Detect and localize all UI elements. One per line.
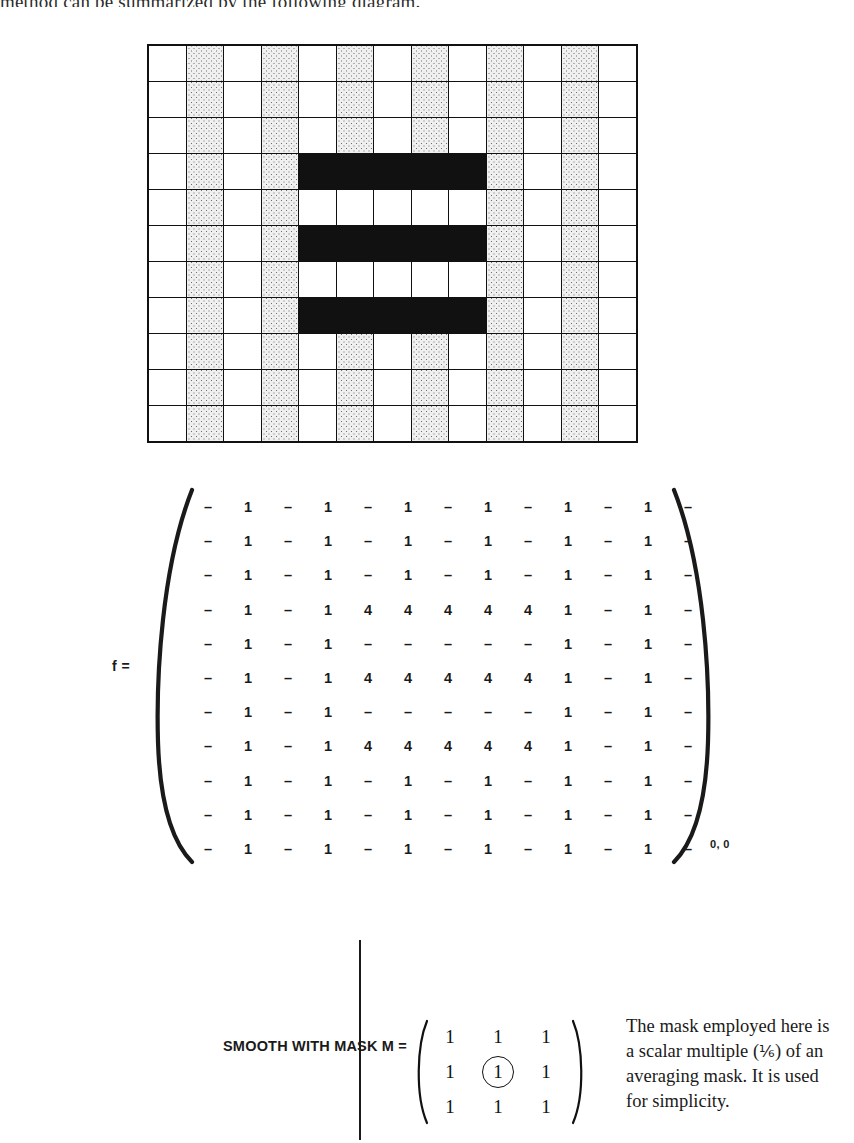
pixel-cell-white	[148, 82, 186, 118]
matrix-f-cell: 1	[628, 627, 668, 661]
pixel-cell-dotted	[486, 45, 524, 82]
matrix-f-cell: –	[588, 729, 628, 763]
matrix-f-cell: 1	[548, 764, 588, 798]
matrix-f-cell: 1	[548, 627, 588, 661]
pixel-cell-dotted	[186, 370, 224, 406]
matrix-f-cell: 1	[228, 832, 268, 866]
matrix-f-cell: –	[508, 798, 548, 832]
matrix-f-cell: 4	[428, 729, 468, 763]
matrix-f-cell: 4	[428, 661, 468, 695]
matrix-f-cell: 1	[228, 798, 268, 832]
matrix-f-cell: –	[588, 695, 628, 729]
pixel-cell-white	[599, 226, 637, 262]
matrix-f-cell: –	[428, 695, 468, 729]
pixel-cell-dotted	[336, 45, 374, 82]
pixel-cell-dotted	[336, 118, 374, 154]
matrix-f-cell: –	[188, 524, 228, 558]
matrix-f-cell: –	[348, 832, 388, 866]
mask-note-line-2-pre: a scalar multiple (	[626, 1041, 759, 1061]
pixel-cell-dotted	[186, 45, 224, 82]
pixel-cell-dotted	[486, 370, 524, 406]
mask-matrix-cell-origin-circled: 1	[474, 1054, 522, 1089]
pixel-cell-white	[374, 82, 412, 118]
pixel-cell-dotted	[561, 298, 599, 334]
pixel-grid-row	[148, 298, 637, 334]
matrix-f-cell: –	[268, 729, 308, 763]
matrix-f-cell: –	[268, 524, 308, 558]
right-parenthesis-icon	[670, 486, 714, 866]
pixel-cell-white	[148, 298, 186, 334]
matrix-f-cell: 1	[308, 627, 348, 661]
pixel-cell-white	[374, 45, 412, 82]
matrix-f-cell: –	[268, 798, 308, 832]
pixel-cell-white	[148, 190, 186, 226]
pixel-cell-dotted	[261, 370, 299, 406]
matrix-f-cell: –	[188, 627, 228, 661]
mask-matrix-row: 111	[426, 1019, 570, 1054]
matrix-f-cell: –	[588, 558, 628, 592]
matrix-f-cell: –	[428, 524, 468, 558]
matrix-f-cell: 1	[308, 558, 348, 592]
matrix-f-cell: –	[268, 661, 308, 695]
pixel-cell-dotted	[186, 190, 224, 226]
pixel-cell-dotted	[486, 82, 524, 118]
pixel-cell-white	[148, 118, 186, 154]
matrix-f-cell: 1	[308, 524, 348, 558]
pixel-grid-row	[148, 226, 637, 262]
matrix-f-cell: 1	[628, 558, 668, 592]
pixel-cell-white	[524, 334, 562, 370]
pixel-cell-dotted	[336, 406, 374, 443]
matrix-f-cell: 4	[388, 661, 428, 695]
pixel-cell-white	[224, 334, 262, 370]
pixel-cell-white	[449, 406, 487, 443]
matrix-f-cell: –	[348, 695, 388, 729]
pixel-cell-dotted	[336, 370, 374, 406]
pixel-cell-white	[374, 406, 412, 443]
mask-note-line-4: for simplicity.	[626, 1091, 730, 1111]
pixel-cell-dotted	[486, 334, 524, 370]
matrix-f-cell: 1	[468, 490, 508, 524]
pixel-cell-white	[299, 82, 337, 118]
pixel-cell-black	[374, 154, 412, 190]
matrix-f-cell: –	[588, 798, 628, 832]
matrix-f-cell: 1	[628, 593, 668, 627]
pixel-cell-dotted	[561, 154, 599, 190]
pixel-cell-dotted	[261, 334, 299, 370]
matrix-f-cell: –	[508, 627, 548, 661]
mask-matrix-container: 111111111	[410, 1019, 610, 1125]
mask-note-fraction: ⅙	[759, 1043, 775, 1060]
matrix-f-row: –1–1–1–1–1–1–	[188, 524, 708, 558]
matrix-f-cell: –	[268, 695, 308, 729]
pixel-cell-white	[299, 406, 337, 443]
pixel-cell-dotted	[186, 118, 224, 154]
pixel-cell-black	[449, 298, 487, 334]
pixel-cell-white	[599, 262, 637, 298]
matrix-f-cell: –	[188, 490, 228, 524]
matrix-f-cell: 1	[628, 661, 668, 695]
pixel-cell-white	[374, 190, 412, 226]
pixel-cell-white	[449, 334, 487, 370]
matrix-f-cell: –	[468, 627, 508, 661]
pixel-cell-dotted	[261, 262, 299, 298]
pixel-cell-white	[224, 190, 262, 226]
pixel-cell-white	[449, 370, 487, 406]
matrix-f-cell: –	[428, 832, 468, 866]
matrix-f-cell: –	[268, 593, 308, 627]
pixel-cell-black	[411, 226, 449, 262]
matrix-f-body: –1–1–1–1–1–1––1–1–1–1–1–1––1–1–1–1–1–1––…	[188, 490, 708, 866]
matrix-f-cell: 4	[348, 729, 388, 763]
pixel-cell-black	[374, 298, 412, 334]
matrix-f-cell: 1	[228, 627, 268, 661]
matrix-f-cell: –	[428, 798, 468, 832]
matrix-f-cell: 1	[628, 524, 668, 558]
matrix-f-cell: 4	[388, 729, 428, 763]
pixel-cell-dotted	[411, 370, 449, 406]
pixel-cell-dotted	[261, 45, 299, 82]
matrix-f-row: –1–1–1–1–1–1–	[188, 558, 708, 592]
pixel-cell-white	[524, 406, 562, 443]
pixel-cell-white	[524, 82, 562, 118]
pixel-cell-dotted	[561, 262, 599, 298]
matrix-f-cell: 1	[388, 558, 428, 592]
pixel-cell-white	[599, 82, 637, 118]
pixel-cell-dotted	[261, 118, 299, 154]
